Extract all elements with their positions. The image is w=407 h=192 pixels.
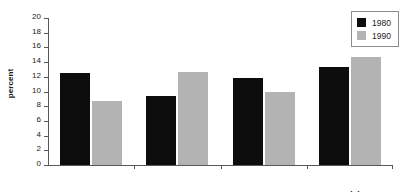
y-axis-title: percent	[0, 0, 22, 166]
y-axis-tick-label: 16	[32, 41, 41, 50]
y-axis-tick-mark	[44, 150, 48, 151]
y-axis-tick-mark	[44, 106, 48, 107]
legend-item-1980: 1980	[357, 16, 391, 29]
y-axis-tick-label: 10	[32, 86, 41, 95]
y-axis-line	[48, 18, 49, 165]
bar-iran-1980	[146, 96, 176, 165]
bar-morocco-1990	[265, 92, 295, 166]
bar-egypt-1990	[92, 101, 122, 165]
y-axis-title-text: percent	[7, 68, 16, 98]
y-axis-tick-label: 18	[32, 27, 41, 36]
legend-swatch-icon-1990	[357, 31, 366, 40]
y-axis-tick-label: 14	[32, 56, 41, 65]
x-axis-end-tick	[392, 165, 393, 169]
bar-morocco-1980	[233, 78, 263, 165]
legend-item-1990: 1990	[357, 29, 391, 42]
bar-iran-1990	[178, 72, 208, 165]
bar-tunisia-1990	[351, 57, 381, 165]
bar-tunisia-1980	[319, 67, 349, 165]
y-axis-tick-label: 0	[37, 159, 41, 168]
legend-swatch-icon-1980	[357, 18, 366, 27]
x-axis-separator-tick	[221, 165, 222, 169]
y-axis-tick-mark	[44, 165, 48, 166]
x-axis-label-tunisia: Tunisia	[335, 190, 364, 192]
y-axis-tick-mark	[44, 33, 48, 34]
bar-chart: percent 20181614121086420 EgyptIranMoroc…	[0, 0, 407, 192]
y-axis-tick-mark	[44, 121, 48, 122]
x-axis-label-morocco: Morocco	[246, 190, 281, 192]
y-axis-tick-mark	[44, 92, 48, 93]
y-axis-tick-label: 20	[32, 12, 41, 21]
y-axis-tick-mark	[44, 47, 48, 48]
plot-area: 20181614121086420 EgyptIranMoroccoTunisi…	[48, 18, 393, 165]
y-axis-tick-label: 4	[37, 130, 41, 139]
bar-egypt-1980	[60, 73, 90, 165]
legend-label-1990: 1990	[372, 31, 391, 41]
x-axis-label-egypt: Egypt	[79, 190, 103, 192]
legend: 1980 1990	[351, 11, 399, 47]
y-axis-tick-mark	[44, 62, 48, 63]
x-axis-separator-tick	[134, 165, 135, 169]
y-axis-tick-label: 2	[37, 144, 41, 153]
x-axis-separator-tick	[307, 165, 308, 169]
y-axis-tick-label: 12	[32, 71, 41, 80]
y-axis-tick-label: 8	[37, 100, 41, 109]
y-axis-tick-mark	[44, 136, 48, 137]
y-axis-tick-mark	[44, 77, 48, 78]
y-axis-tick-mark	[44, 18, 48, 19]
x-axis-label-iran: Iran	[170, 190, 186, 192]
legend-label-1980: 1980	[372, 18, 391, 28]
y-axis-tick-label: 6	[37, 115, 41, 124]
